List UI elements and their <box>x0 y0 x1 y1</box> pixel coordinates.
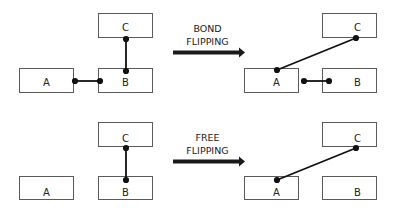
row1-after-bond-dot <box>275 68 279 72</box>
row1-arrow-icon <box>173 48 245 58</box>
row2-after-bond-dot <box>354 146 358 150</box>
row1-after-bond-dot <box>354 36 358 40</box>
row1-before-bond-dot <box>124 69 128 73</box>
row1-before-bond-dot <box>98 79 102 83</box>
row1-after-bond-a-c <box>277 38 356 70</box>
row2-before-bond-dot <box>124 178 128 182</box>
row2-after-bond-a-c <box>277 148 356 180</box>
row1-before-bond-dot <box>73 79 77 83</box>
row2-before-bond-dot <box>124 146 128 150</box>
row2-arrow-icon <box>173 157 245 167</box>
row1-before-bond-dot <box>124 37 128 41</box>
row1-after-bond-dot <box>302 79 306 83</box>
row1-after-bond-dot <box>327 79 331 83</box>
row2-after-bond-dot <box>275 178 279 182</box>
bonds-and-arrows <box>0 0 397 212</box>
